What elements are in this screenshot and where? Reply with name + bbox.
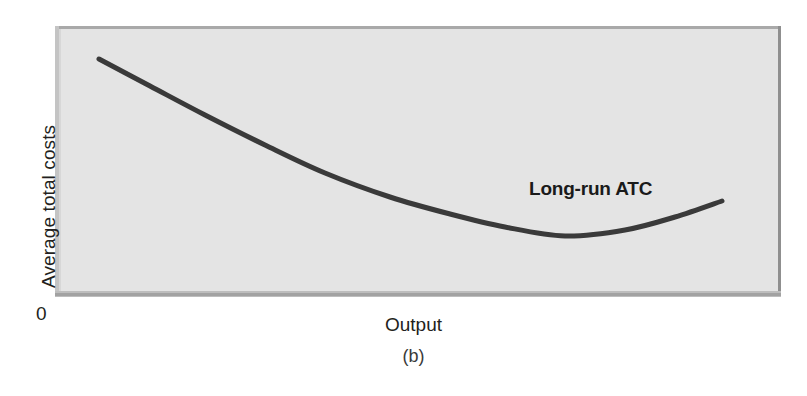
plot-border-right [778, 26, 781, 297]
plot-axis-line-x [55, 293, 781, 296]
figure-container: Average total costs 0 Output (b) Long-ru… [0, 0, 807, 396]
x-axis-label-text: Output [385, 314, 442, 335]
x-axis-label: Output [0, 314, 807, 336]
figure-caption-text: (b) [403, 346, 425, 366]
figure-caption: (b) [0, 346, 807, 367]
plot-area [55, 26, 781, 297]
curve-annotation-long-run-atc: Long-run ATC [529, 178, 652, 200]
y-axis-label: Average total costs [38, 0, 60, 288]
plot-border-top [55, 26, 781, 29]
